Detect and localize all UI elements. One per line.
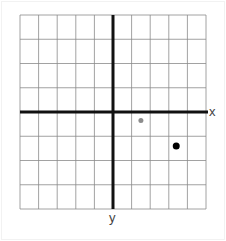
- y-axis-label: y: [109, 211, 116, 224]
- black-point: [173, 142, 180, 149]
- gray-point: [138, 118, 143, 123]
- coordinate-grid: [0, 0, 226, 241]
- x-axis-label: x: [209, 105, 216, 118]
